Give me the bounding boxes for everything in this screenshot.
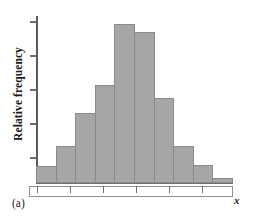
panel-caption: (a) xyxy=(12,197,25,209)
histogram-bar xyxy=(114,24,135,183)
histogram-bar xyxy=(154,98,175,183)
histogram-bar xyxy=(212,178,233,183)
x-axis-label: x xyxy=(234,194,240,206)
x-axis-tick xyxy=(70,186,71,193)
x-axis-tick xyxy=(103,186,104,193)
y-axis-label: Relative frequency xyxy=(12,14,24,174)
y-axis-label-container: Relative frequency xyxy=(0,0,30,190)
histogram-bar xyxy=(134,32,155,183)
histogram-bar xyxy=(36,166,57,183)
x-axis-tick xyxy=(136,186,137,193)
histogram-bar xyxy=(95,85,116,183)
histogram-bar xyxy=(173,146,194,183)
x-axis-tick xyxy=(202,186,203,193)
x-axis-tick xyxy=(37,186,38,193)
histogram-bar xyxy=(75,113,96,183)
histogram-bar xyxy=(193,165,214,183)
x-axis-tick xyxy=(169,186,170,193)
histogram-bar xyxy=(56,146,77,183)
plot-area xyxy=(36,17,232,183)
histogram-figure: Relative frequency x (a) xyxy=(0,0,263,219)
